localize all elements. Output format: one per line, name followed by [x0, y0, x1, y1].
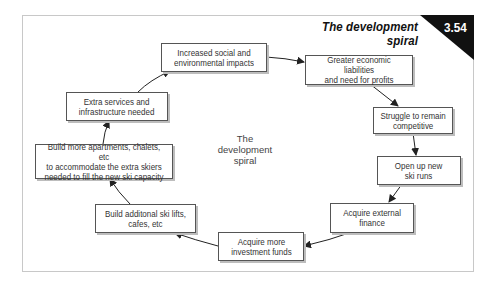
node-label: Increased social and environmental impac… [174, 48, 254, 68]
arrow-struggle-to-runs [413, 133, 416, 155]
node-label: Build more apartments, chalets, etc to a… [43, 142, 166, 182]
arrow-social-to-liabilities [266, 57, 304, 62]
node-external-finance: Acquire external finance [330, 203, 414, 233]
arrow-liabilities-to-struggle [370, 84, 398, 106]
node-extra-services: Extra services and infrastructure needed [66, 92, 168, 121]
node-social-impacts: Increased social and environmental impac… [161, 43, 267, 72]
node-label: Greater economic liabilities and need fo… [312, 55, 407, 85]
node-economic-liabilities: Greater economic liabilities and need fo… [305, 55, 413, 85]
node-label: Acquire external finance [343, 208, 401, 228]
node-ski-lifts: Build additonal ski lifts, cafes, etc [95, 204, 196, 233]
node-new-ski-runs: Open up new ski runs [377, 156, 461, 185]
node-struggle-competitive: Struggle to remain competitive [373, 107, 453, 134]
center-label: The development spiral [210, 133, 280, 166]
node-label: Extra services and infrastructure needed [79, 97, 155, 117]
arrow-services-to-social [138, 71, 170, 92]
node-investment-funds: Acquire more investment funds [218, 232, 304, 261]
arrow-external-to-investment [304, 232, 352, 246]
node-apartments: Build more apartments, chalets, etc to a… [35, 144, 173, 179]
node-label: Struggle to remain competitive [380, 111, 445, 131]
arrow-lifts-to-apartments [110, 179, 130, 204]
arrow-runs-to-external [389, 184, 402, 202]
node-label: Build additonal ski lifts, cafes, etc [105, 209, 186, 229]
arrow-investment-to-lifts [175, 233, 218, 246]
node-label: Acquire more investment funds [231, 237, 291, 257]
node-label: Open up new ski runs [395, 161, 443, 181]
